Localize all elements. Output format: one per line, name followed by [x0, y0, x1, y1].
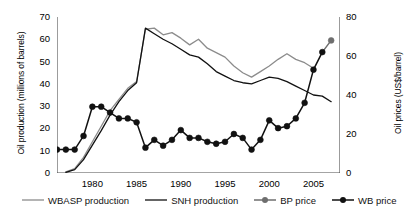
- y-axis-left-title: Oil production (millions of barrels): [16, 18, 26, 168]
- series-line-snh-production: [66, 28, 331, 172]
- legend-line-dot-icon: [254, 195, 276, 205]
- data-point: [63, 147, 69, 153]
- data-point: [81, 133, 87, 139]
- series-line-wbasp-production: [66, 28, 314, 172]
- data-point: [178, 127, 184, 133]
- legend-item-wbasp-production[interactable]: WBASP production: [22, 195, 129, 206]
- data-point: [240, 135, 246, 141]
- legend-label: WB price: [358, 195, 397, 206]
- data-point: [116, 116, 122, 122]
- legend-item-bp-price[interactable]: BP price: [254, 195, 316, 206]
- chart-legend: WBASP productionSNH productionBP priceWB…: [22, 193, 402, 207]
- data-point: [204, 139, 210, 145]
- data-point: [125, 116, 131, 122]
- data-point: [328, 38, 334, 44]
- data-point: [319, 49, 325, 55]
- data-point: [160, 143, 166, 149]
- data-point: [302, 100, 308, 106]
- data-point: [151, 137, 157, 143]
- data-point: [231, 131, 237, 137]
- legend-label: WBASP production: [48, 195, 129, 206]
- y-left-tick-40: 40: [30, 78, 50, 89]
- data-point: [311, 67, 317, 73]
- y-axis-right-title: Oil prices (US$/barrel): [393, 18, 403, 168]
- x-tick-1980: 1980: [75, 178, 109, 189]
- y-right-tick-40: 40: [346, 89, 366, 100]
- data-point: [143, 145, 149, 151]
- legend-item-snh-production[interactable]: SNH production: [145, 195, 238, 206]
- x-tick-1985: 1985: [120, 178, 154, 189]
- plot-area: [57, 17, 340, 173]
- data-point: [72, 147, 78, 153]
- legend-line-dot-icon: [332, 195, 354, 205]
- data-point: [284, 123, 290, 129]
- x-tick-2000: 2000: [252, 178, 286, 189]
- data-point: [222, 139, 228, 145]
- data-point: [275, 125, 281, 131]
- data-point: [89, 104, 95, 110]
- y-left-tick-0: 0: [30, 167, 50, 178]
- y-right-tick-0: 0: [346, 167, 366, 178]
- data-point: [107, 110, 113, 116]
- data-point: [266, 117, 272, 123]
- data-point: [187, 135, 193, 141]
- figure-caption: [2, 210, 4, 219]
- legend-line-icon: [145, 195, 167, 205]
- x-tick-1995: 1995: [208, 178, 242, 189]
- y-left-tick-30: 30: [30, 100, 50, 111]
- y-right-tick-20: 20: [346, 128, 366, 139]
- legend-line-icon: [22, 195, 44, 205]
- x-tick-1990: 1990: [164, 178, 198, 189]
- data-point: [258, 137, 264, 143]
- data-point: [169, 137, 175, 143]
- chart-svg: [57, 17, 340, 173]
- data-point: [134, 119, 140, 125]
- data-point: [249, 147, 255, 153]
- legend-item-wb-price[interactable]: WB price: [332, 195, 397, 206]
- figure: Oil production (millions of barrels) Oil…: [0, 0, 417, 221]
- x-tick-2005: 2005: [296, 178, 330, 189]
- y-left-tick-60: 60: [30, 33, 50, 44]
- y-left-tick-10: 10: [30, 145, 50, 156]
- legend-label: BP price: [280, 195, 316, 206]
- data-point: [293, 116, 299, 122]
- data-point: [57, 147, 60, 153]
- y-left-tick-50: 50: [30, 56, 50, 67]
- data-point: [98, 104, 104, 110]
- legend-label: SNH production: [171, 195, 238, 206]
- data-point: [213, 141, 219, 147]
- data-point: [196, 135, 202, 141]
- y-right-tick-60: 60: [346, 50, 366, 61]
- y-left-tick-20: 20: [30, 122, 50, 133]
- y-right-tick-80: 80: [346, 11, 366, 22]
- y-left-tick-70: 70: [30, 11, 50, 22]
